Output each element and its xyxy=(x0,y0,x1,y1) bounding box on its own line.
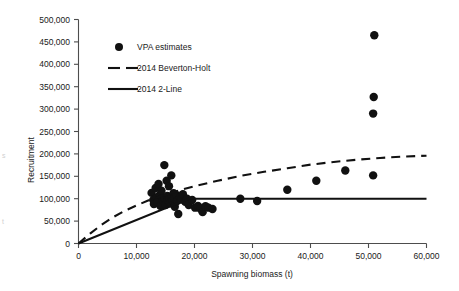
y-tick-label: 250,000 xyxy=(39,127,70,137)
y-axis-tick-labels: 500,000 450,000 400,000 350,000 300,000 … xyxy=(39,15,70,249)
chart-legend: VPA estimates 2014 Beverton-Holt 2014 2-… xyxy=(108,42,211,94)
y-tick-label: 50,000 xyxy=(44,216,70,226)
y-tick-label: 300,000 xyxy=(39,104,70,114)
data-point xyxy=(341,166,349,174)
data-point xyxy=(174,210,182,218)
legend-label-two-line: 2014 2-Line xyxy=(137,84,182,94)
x-tick-label: 60,000 xyxy=(414,251,440,261)
x-tick-label: 0 xyxy=(76,251,81,261)
y-tick-label: 100,000 xyxy=(39,194,70,204)
data-series-layer xyxy=(79,31,427,244)
vpa-estimate-points xyxy=(147,31,378,218)
y-axis-title: Recruitment xyxy=(26,136,36,182)
y-tick-label: 400,000 xyxy=(39,59,70,69)
data-point xyxy=(370,93,378,101)
legend-label-beverton-holt: 2014 Beverton-Holt xyxy=(137,63,211,73)
two-line-curve xyxy=(79,199,427,244)
chart-svg: 500,000 450,000 400,000 350,000 300,000 … xyxy=(0,0,459,291)
y-tick-label: 450,000 xyxy=(39,37,70,47)
x-tick-label: 20,000 xyxy=(182,251,208,261)
data-point xyxy=(283,186,291,194)
x-axis-title: Spawning biomass (t) xyxy=(211,269,293,279)
legend-label-vpa: VPA estimates xyxy=(137,42,192,52)
y-tick-label: 350,000 xyxy=(39,82,70,92)
x-tick-label: 10,000 xyxy=(124,251,150,261)
scan-artifact: s t xyxy=(2,152,6,225)
svg-text:s: s xyxy=(2,152,6,159)
data-point xyxy=(208,205,216,213)
y-tick-label: 500,000 xyxy=(39,15,70,25)
y-tick-label: 0 xyxy=(65,239,70,249)
data-point xyxy=(167,171,175,179)
y-tick-label: 200,000 xyxy=(39,149,70,159)
y-tick-label: 150,000 xyxy=(39,171,70,181)
x-axis-ticks xyxy=(79,244,427,249)
data-point xyxy=(370,31,378,39)
data-point xyxy=(312,177,320,185)
data-point xyxy=(160,161,168,169)
legend-marker-vpa-point-icon xyxy=(115,43,123,51)
x-axis-tick-labels: 0 10,000 20,000 30,000 40,000 50,000 60,… xyxy=(76,251,440,261)
data-point xyxy=(369,171,377,179)
x-tick-label: 30,000 xyxy=(240,251,266,261)
x-tick-label: 40,000 xyxy=(298,251,324,261)
x-tick-label: 50,000 xyxy=(356,251,382,261)
y-axis-ticks xyxy=(74,20,79,244)
recruitment-vs-spawning-biomass-chart: 500,000 450,000 400,000 350,000 300,000 … xyxy=(0,0,459,291)
svg-text:t: t xyxy=(2,218,4,225)
data-point xyxy=(165,182,173,190)
data-point xyxy=(369,109,377,117)
axis-spines xyxy=(79,20,427,244)
